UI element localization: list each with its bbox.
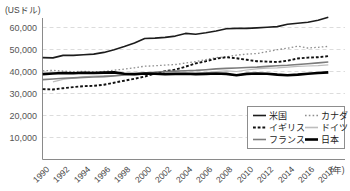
legend-item-4: フランス xyxy=(253,134,305,146)
y-axis-tick-label: 60,000 xyxy=(1,23,37,33)
legend-item-0: 米国 xyxy=(253,109,305,121)
legend-line-swatch xyxy=(305,112,318,119)
average-wage-line-chart: (USドル) 10,00020,00030,00040,00050,00060,… xyxy=(0,0,350,191)
legend-label: イギリス xyxy=(269,121,305,134)
y-axis-tick-label: 40,000 xyxy=(1,67,37,77)
legend-line-swatch xyxy=(305,136,318,143)
y-axis-tick-label: 50,000 xyxy=(1,45,37,55)
legend-line-swatch xyxy=(253,124,266,131)
series-line-0 xyxy=(43,17,329,58)
legend-label: 米国 xyxy=(269,109,287,122)
legend-label: ドイツ xyxy=(321,121,348,134)
legend-line-swatch xyxy=(305,124,318,131)
chart-plot-svg xyxy=(0,0,350,191)
legend-item-2: イギリス xyxy=(253,122,305,134)
legend-line-swatch xyxy=(253,136,266,143)
legend-label: フランス xyxy=(269,133,305,146)
series-line-5 xyxy=(43,72,329,75)
y-axis-tick-label: 20,000 xyxy=(1,111,37,121)
y-axis-tick-label: 30,000 xyxy=(1,89,37,99)
legend-item-5: 日本 xyxy=(305,134,348,146)
legend-item-3: ドイツ xyxy=(305,122,348,134)
y-axis-tick-label: 10,000 xyxy=(1,133,37,143)
legend-label: 日本 xyxy=(321,133,339,146)
legend-line-swatch xyxy=(253,112,266,119)
chart-legend: 米国カナダイギリスドイツフランス日本 xyxy=(247,106,345,149)
x-axis-unit-label: (年) xyxy=(330,166,345,175)
legend-label: カナダ xyxy=(321,109,348,122)
series-line-1 xyxy=(43,46,329,71)
legend-item-1: カナダ xyxy=(305,109,348,121)
